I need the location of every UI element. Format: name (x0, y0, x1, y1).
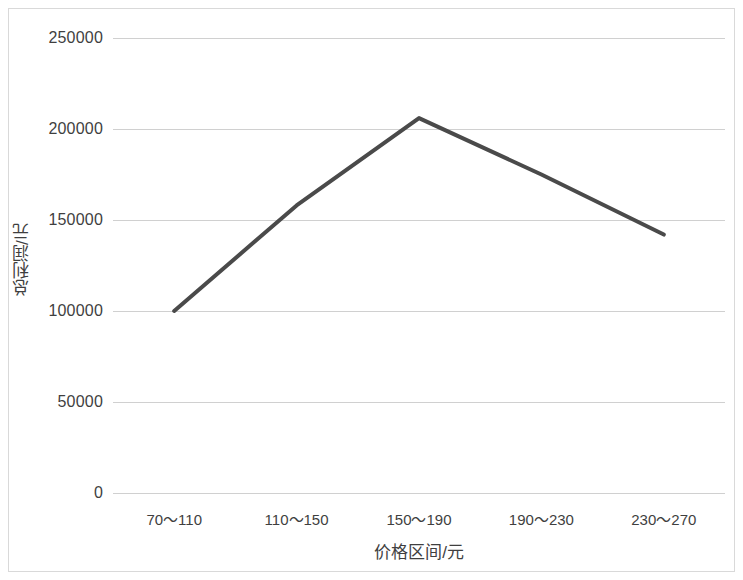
data-line (174, 118, 664, 311)
x-axis-tick-label: 230～270 (631, 508, 696, 529)
x-axis-tick-label: 190～230 (509, 508, 574, 529)
x-axis-title: 价格区间/元 (113, 538, 725, 563)
y-axis-tick-label: 50000 (58, 393, 104, 411)
plot-area (113, 38, 725, 493)
line-series-layer (113, 38, 725, 493)
gridline (113, 493, 725, 494)
x-axis-tick-label: 70～110 (146, 508, 202, 529)
x-axis-tick-label: 110～150 (265, 508, 329, 529)
y-axis-tick-label: 150000 (48, 211, 103, 229)
y-axis-tick-label: 250000 (48, 29, 103, 47)
x-axis-tick-label: 150～190 (386, 508, 451, 529)
x-axis-tick-labels: 70～110110～150150～190190～230230～270 (113, 508, 725, 532)
y-axis-tick-labels: 050000100000150000200000250000 (0, 38, 103, 493)
y-axis-tick-label: 100000 (48, 302, 103, 320)
y-axis-tick-label: 0 (94, 484, 103, 502)
y-axis-tick-label: 200000 (48, 120, 103, 138)
chart-figure: 总利润/元 050000100000150000200000250000 70～… (0, 0, 743, 580)
